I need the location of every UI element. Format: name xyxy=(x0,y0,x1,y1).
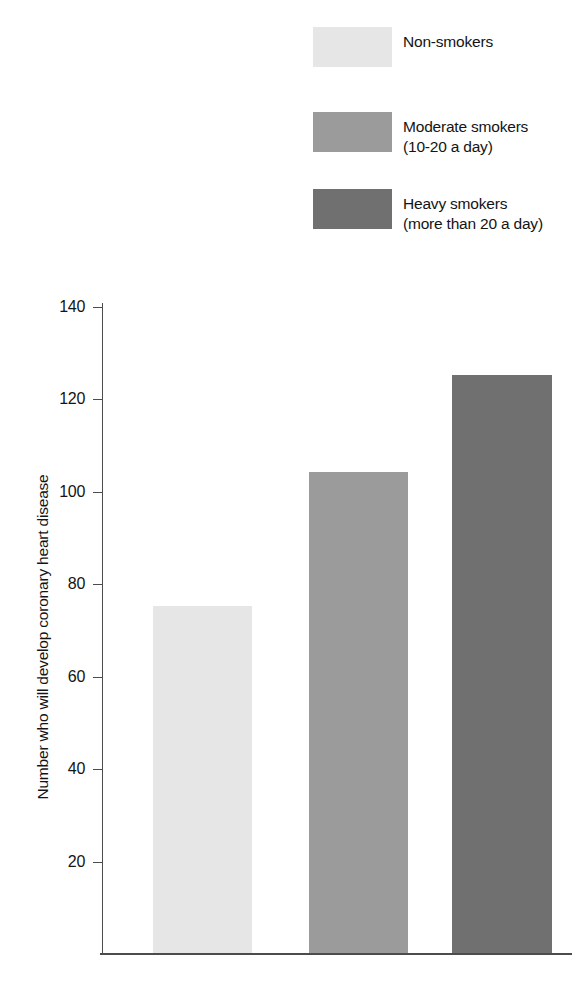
y-tick-100 xyxy=(93,492,103,493)
x-axis-line xyxy=(100,953,572,955)
y-tick-60 xyxy=(93,677,103,678)
y-tick-20 xyxy=(93,862,103,863)
y-tick-80 xyxy=(93,584,103,585)
bar-moderate-smokers xyxy=(309,472,408,953)
y-axis-line xyxy=(102,303,103,955)
chart-figure: Non-smokers Moderate smokers (10-20 a da… xyxy=(0,0,588,988)
bar-heavy-smokers xyxy=(452,375,552,953)
plot-area: 140 120 100 80 60 40 20 Number who will … xyxy=(0,0,588,988)
y-tick-label-140: 140 xyxy=(27,299,85,315)
y-axis-title: Number who will develop coronary heart d… xyxy=(34,402,52,872)
y-tick-40 xyxy=(93,769,103,770)
y-tick-140 xyxy=(93,307,103,308)
y-tick-120 xyxy=(93,399,103,400)
bar-non-smokers xyxy=(153,606,252,953)
